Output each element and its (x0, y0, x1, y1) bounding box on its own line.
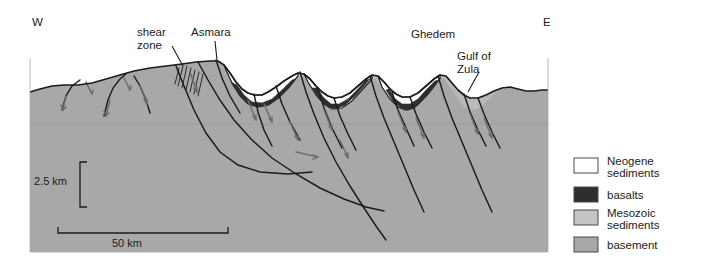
legend: NeogenesedimentsbasaltsMesozoicsediments… (563, 148, 691, 258)
legend-label-neogene-sediments-line2: sediments (607, 167, 660, 179)
legend-label-mesozoic-sediments-line1: Mesozoic (607, 207, 656, 219)
compass-label-west: W (32, 16, 43, 28)
annotation-shear-zone: shearzone (137, 26, 166, 51)
legend-swatch-mesozoic-sediments (574, 210, 598, 225)
cross-section-figure: W E shearzoneAsmaraGhedemGulf ofZula 2.5… (0, 0, 704, 276)
vertical-scale-label: 2.5 km (34, 175, 67, 187)
annotation-gulf-of-zula-line1: Gulf of (457, 50, 492, 62)
annotation-ghedem-line1: Ghedem (411, 28, 455, 40)
legend-swatch-neogene-sediments (574, 158, 598, 173)
annotation-shear-zone-line2: zone (137, 39, 162, 51)
annotation-gulf-of-zula-line2: Zula (457, 63, 480, 75)
legend-label-basalts-line1: basalts (607, 189, 644, 201)
legend-label-mesozoic-sediments-line2: sediments (607, 219, 660, 231)
annotation-asmara: Asmara (191, 26, 231, 38)
figure-root: W E shearzoneAsmaraGhedemGulf ofZula 2.5… (0, 0, 704, 276)
compass-label-east: E (543, 16, 551, 28)
annotation-shear-zone-line1: shear (137, 26, 166, 38)
legend-label-basement-line1: basement (607, 239, 658, 251)
legend-label-basement: basement (607, 239, 658, 251)
annotation-asmara-line1: Asmara (191, 26, 231, 38)
horizontal-scale-label: 50 km (112, 237, 142, 249)
legend-label-basalts: basalts (607, 189, 644, 201)
legend-swatch-basalts (574, 187, 598, 202)
annotation-ghedem: Ghedem (411, 28, 455, 40)
legend-label-neogene-sediments-line1: Neogene (607, 155, 654, 167)
legend-swatch-basement (574, 237, 598, 252)
legend-label-neogene-sediments: Neogenesediments (607, 155, 660, 179)
legend-label-mesozoic-sediments: Mesozoicsediments (607, 207, 660, 231)
